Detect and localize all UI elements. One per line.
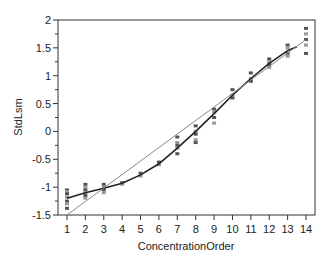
x-tick-label: 4 bbox=[119, 223, 125, 235]
x-tick-label: 7 bbox=[174, 223, 180, 235]
data-point bbox=[175, 141, 179, 144]
x-tick-label: 10 bbox=[226, 223, 238, 235]
y-tick-label: 1 bbox=[45, 70, 51, 82]
data-point bbox=[83, 188, 87, 191]
data-point bbox=[194, 138, 198, 141]
data-point bbox=[65, 207, 69, 210]
data-point bbox=[175, 136, 179, 139]
data-point bbox=[83, 194, 87, 197]
data-point bbox=[286, 55, 290, 58]
x-tick-label: 12 bbox=[263, 223, 275, 235]
data-point bbox=[304, 27, 308, 30]
data-point bbox=[286, 46, 290, 49]
data-point bbox=[249, 71, 253, 74]
data-point bbox=[286, 44, 290, 47]
data-point bbox=[102, 183, 106, 186]
y-axis: -1.5-1-0.500.511.52 bbox=[32, 14, 58, 221]
data-point bbox=[65, 192, 69, 195]
data-point bbox=[83, 197, 87, 200]
y-axis-title: StdLsm bbox=[12, 98, 24, 135]
x-tick-label: 6 bbox=[156, 223, 162, 235]
x-axis: 1234567891011121314 bbox=[64, 215, 312, 235]
data-point bbox=[65, 202, 69, 205]
y-tick-label: 2 bbox=[45, 14, 51, 26]
data-point bbox=[102, 191, 106, 194]
data-point bbox=[83, 183, 87, 186]
data-point bbox=[194, 124, 198, 127]
y-tick-label: 1.5 bbox=[36, 42, 51, 54]
x-tick-label: 14 bbox=[300, 223, 312, 235]
x-tick-label: 5 bbox=[137, 223, 143, 235]
y-tick-label: -1 bbox=[41, 181, 51, 193]
x-tick-label: 8 bbox=[193, 223, 199, 235]
y-tick-label: 0 bbox=[45, 125, 51, 137]
data-point bbox=[267, 58, 271, 61]
x-tick-label: 9 bbox=[211, 223, 217, 235]
y-tick-label: 0.5 bbox=[36, 98, 51, 110]
x-tick-label: 1 bbox=[64, 223, 70, 235]
x-tick-label: 2 bbox=[82, 223, 88, 235]
x-axis-title: ConcentrationOrder bbox=[138, 240, 235, 252]
data-point bbox=[65, 200, 69, 203]
data-point bbox=[230, 88, 234, 91]
data-point bbox=[304, 32, 308, 35]
scatter-chart: -1.5-1-0.500.511.52 1234567891011121314 … bbox=[0, 0, 333, 264]
data-point bbox=[194, 141, 198, 144]
plot-frame bbox=[58, 20, 315, 215]
data-point bbox=[212, 122, 216, 125]
data-point bbox=[175, 152, 179, 155]
y-tick-label: -1.5 bbox=[32, 209, 51, 221]
data-point bbox=[212, 116, 216, 119]
x-tick-label: 3 bbox=[101, 223, 107, 235]
x-tick-label: 13 bbox=[281, 223, 293, 235]
data-point bbox=[83, 186, 87, 189]
data-point bbox=[304, 52, 308, 55]
x-tick-label: 11 bbox=[245, 223, 256, 235]
y-tick-label: -0.5 bbox=[32, 153, 51, 165]
data-point bbox=[304, 44, 308, 47]
